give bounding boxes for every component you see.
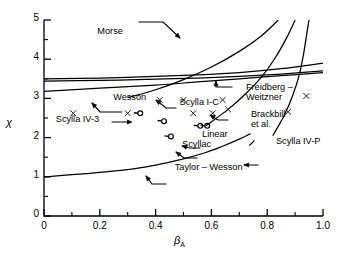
y-tick-label-3: 3 <box>22 91 39 102</box>
scylla-iv3-label: Scylla IV-3 <box>56 115 99 125</box>
x-axis-title-sub: A <box>180 241 185 248</box>
scylla-iv3-pointer-arrowhead <box>127 120 132 124</box>
taylor-wesson-label: Taylor – Wesson <box>175 163 243 173</box>
y-tick-label-1: 1 <box>22 170 39 181</box>
experiment-marker-scyllac <box>169 134 174 139</box>
x-tick-label-2: 0.4 <box>140 221 172 232</box>
experiment-marker-scylla-iv-p <box>249 141 254 146</box>
scylla-ivp-label: Scylla IV-P <box>276 137 320 147</box>
x-tick-label-5: 1.0 <box>307 221 338 232</box>
data-point-x-marker-6 <box>220 97 226 103</box>
data-point-x-marker-7 <box>225 107 231 113</box>
scyllac-label: Scyllac <box>182 140 211 150</box>
experiment-marker-scylla-i-c <box>138 111 143 116</box>
x-tick-label-3: 0.6 <box>195 221 227 232</box>
y-tick-label-2: 2 <box>22 131 39 142</box>
data-point-x-marker-1 <box>125 110 131 116</box>
data-point-x-marker-9 <box>303 93 309 99</box>
morse-label: Morse <box>97 27 123 37</box>
x-tick-label-0: 0 <box>28 221 60 232</box>
freidberg-pointer-arrowhead <box>214 81 218 86</box>
brackbill-pointer-arrowhead <box>210 115 215 119</box>
x-tick-label-1: 0.2 <box>84 221 116 232</box>
y-tick-label-0: 0 <box>22 209 39 220</box>
wesson-pointer <box>92 103 122 112</box>
experiment-marker-scyllac-tail <box>164 136 168 137</box>
experiment-marker-scylla-iv-3 <box>162 119 167 124</box>
experiment-marker-linear-tail <box>194 125 198 126</box>
x-axis-title: βA <box>174 235 185 249</box>
freidberg-pointer <box>216 81 232 87</box>
experiment-marker-scylla-iv-3-tail <box>157 121 161 122</box>
figure-chart: χ βA 01234500.20.40.60.81.0MorseWessonFr… <box>0 0 338 255</box>
wesson-label: Wesson <box>113 93 146 103</box>
data-point-x-marker-4 <box>190 110 196 116</box>
x-tick-label-4: 0.8 <box>251 221 283 232</box>
theory-curve-wesson <box>44 63 323 79</box>
morse-pointer <box>139 22 180 38</box>
y-tick-label-4: 4 <box>22 52 39 63</box>
scylla-ivp-pointer-arrowhead <box>244 163 249 167</box>
y-tick-label-5: 5 <box>22 13 39 24</box>
y-axis-title: χ <box>6 117 12 129</box>
freidberg-weitzner-label: Freidberg –Weitzner <box>246 83 293 102</box>
scylla-ic-label: Scylla I-C <box>180 98 219 108</box>
experiment-marker-scylla-i-c-tail <box>134 113 138 114</box>
plot-canvas <box>0 0 338 255</box>
brackbill-label: Brackbillet al. <box>251 110 286 129</box>
